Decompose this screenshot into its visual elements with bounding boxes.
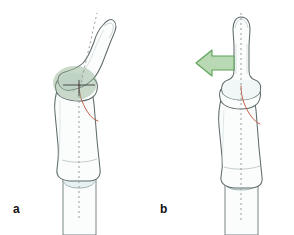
anatomy-illustration [0, 0, 294, 235]
panel-a-joint-highlight-ellipse [53, 66, 97, 100]
panel-label-a: a [13, 203, 20, 215]
reduction-direction-arrow [196, 50, 234, 76]
panel-label-b: b [160, 203, 167, 215]
panel-b [196, 11, 262, 235]
figure-root: a b [0, 0, 294, 235]
panel-a [53, 13, 116, 235]
